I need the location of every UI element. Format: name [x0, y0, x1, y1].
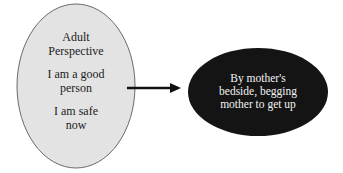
left-line: I am safe	[18, 104, 134, 118]
left-line: Adult	[18, 30, 134, 44]
left-line: now	[18, 118, 134, 132]
adult-perspective-text: Adult Perspective I am a good person I a…	[18, 30, 134, 132]
arrow-head	[170, 83, 181, 93]
left-line: I am a good	[18, 67, 134, 81]
right-line: bedside, begging	[195, 85, 321, 98]
memory-text: By mother's bedside, begging mother to g…	[195, 72, 321, 111]
right-line: mother to get up	[195, 98, 321, 111]
left-line: Perspective	[18, 44, 134, 58]
right-line: By mother's	[195, 72, 321, 85]
left-line: person	[18, 81, 134, 95]
